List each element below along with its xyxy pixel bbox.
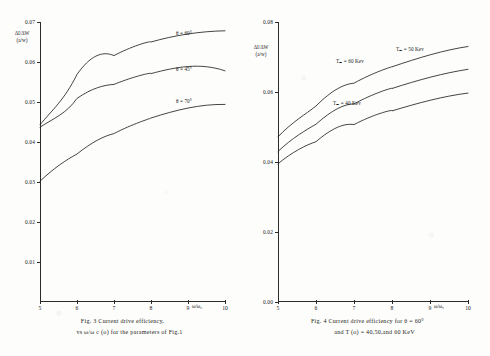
x-ticklabel-fig3: 6 xyxy=(76,305,79,311)
curve-label-tm-40: Tₘ = 40 Kev xyxy=(333,100,361,106)
figure-fig4: 0.08 0.06 0.04 0.02 0.00 ΔI/ΔW (a/w) 5 6… xyxy=(245,0,490,356)
caption-fig4-line2: and T (o) = 40,50,and 60 KeV xyxy=(245,327,490,338)
curve-label-theta-60: θ = 60° xyxy=(176,30,192,36)
caption-fig3-line2: vs ω/ω c (o) for the parameters of Fig.1 xyxy=(0,327,245,338)
plot-area-fig3: 0.07 0.06 0.05 0.04 0.03 0.02 0.01 ΔI/ΔW… xyxy=(40,22,225,302)
y-ticklabel-fig3: 0.05 xyxy=(25,99,35,105)
y-ticklabel-fig4: 0.00 xyxy=(263,299,273,305)
x-ticklabel-fig3: 8 xyxy=(150,305,153,311)
y-ticklabel-fig4: 0.08 xyxy=(263,19,273,25)
x-ticklabel-fig4: 5 xyxy=(277,305,280,311)
curves-fig3 xyxy=(40,22,225,302)
caption-fig4-line1: Fig. 4 Current drive efficiency for θ = … xyxy=(245,316,490,327)
curve-tm-40 xyxy=(278,93,468,164)
y-ticklabel-fig3: 0.01 xyxy=(25,259,35,265)
figure-fig3: 0.07 0.06 0.05 0.04 0.03 0.02 0.01 ΔI/ΔW… xyxy=(0,0,245,356)
curves-fig4 xyxy=(278,22,468,302)
x-ticklabel-fig4: 9 xyxy=(429,305,432,311)
y-ticklabel-fig3: 0.06 xyxy=(25,59,35,65)
plot-area-fig4: 0.08 0.06 0.04 0.02 0.00 ΔI/ΔW (a/w) 5 6… xyxy=(278,22,468,302)
y-axis-label-line1-fig3: ΔI/ΔW xyxy=(15,30,30,36)
x-ticklabel-fig3: 7 xyxy=(113,305,116,311)
x-ticklabel-fig3: 10 xyxy=(222,305,228,311)
x-tick-fig3 xyxy=(225,300,226,304)
curve-theta-70 xyxy=(40,104,225,181)
curve-label-tm-60: Tₘ = 60 Kev xyxy=(336,58,364,64)
curve-label-tm-50: Tₘ = 50 Kev xyxy=(396,46,424,52)
caption-fig4: Fig. 4 Current drive efficiency for θ = … xyxy=(245,316,490,337)
caption-fig3-line1: Fig. 3 Current drive efficiency, xyxy=(0,316,245,327)
scanned-page: 0.07 0.06 0.05 0.04 0.03 0.02 0.01 ΔI/ΔW… xyxy=(0,0,490,356)
y-axis-label-line2-fig3: (a/w) xyxy=(17,37,28,43)
x-ticklabel-fig4: 6 xyxy=(315,305,318,311)
caption-fig3: Fig. 3 Current drive efficiency, vs ω/ω … xyxy=(0,316,245,337)
y-ticklabel-fig3: 0.03 xyxy=(25,179,35,185)
x-tick-fig4 xyxy=(468,300,469,304)
x-ticklabel-fig4: 10 xyxy=(465,305,471,311)
y-ticklabel-fig4: 0.02 xyxy=(263,229,273,235)
y-axis-label-fig3: ΔI/ΔW (a/w) xyxy=(6,30,38,43)
y-ticklabel-fig3: 0.02 xyxy=(25,219,35,225)
curve-tm-50 xyxy=(278,69,468,151)
y-ticklabel-fig3: 0.07 xyxy=(25,19,35,25)
x-ticklabel-fig3: 5 xyxy=(39,305,42,311)
y-axis-label-line2-fig4: (a/w) xyxy=(256,51,267,57)
y-ticklabel-fig3: 0.04 xyxy=(25,139,35,145)
x-ticklabel-fig4: 8 xyxy=(391,305,394,311)
x-ticklabel-fig4: 7 xyxy=(353,305,356,311)
y-axis-label-fig4: ΔI/ΔW (a/w) xyxy=(246,44,276,57)
x-axis-label-fig4: ω/ω₀ xyxy=(434,303,444,309)
curve-label-theta-45: θ = 45° xyxy=(176,66,192,72)
y-ticklabel-fig4: 0.04 xyxy=(263,159,273,165)
x-axis-label-fig3: ω/ω₀ xyxy=(192,303,202,309)
curve-tm-60 xyxy=(278,47,468,137)
y-ticklabel-fig4: 0.06 xyxy=(263,89,273,95)
curve-theta-45 xyxy=(40,66,225,127)
x-ticklabel-fig3: 9 xyxy=(187,305,190,311)
curve-label-theta-70: θ = 70° xyxy=(176,98,192,104)
y-axis-label-line1-fig4: ΔI/ΔW xyxy=(254,44,269,50)
